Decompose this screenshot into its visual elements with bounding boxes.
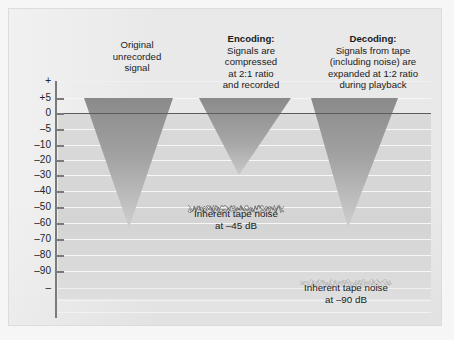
y-axis-tick-mark: [57, 98, 64, 100]
tape-noise-caption: Inherent tape noiseat –45 dB: [172, 208, 300, 232]
y-axis-label: –60: [34, 218, 51, 228]
zero-db-reference-line: [58, 113, 431, 114]
tape-noise-caption-line1: Inherent tape noise: [284, 282, 408, 294]
gridline: [58, 145, 431, 146]
y-axis-tick-mark: [57, 145, 64, 147]
gridline: [58, 129, 431, 130]
column-heading-original: Originalunrecordedsignal: [83, 39, 191, 74]
column-heading-line: Signals from tape: [305, 45, 441, 57]
gridline: [58, 191, 431, 192]
column-heading-line: (including noise) are: [305, 56, 441, 68]
gridline: [58, 271, 431, 272]
column-heading-line: signal: [83, 62, 191, 74]
y-axis-tick-mark: [57, 271, 64, 273]
y-axis-tick-mark: [57, 129, 64, 131]
y-axis-tick-mark: [57, 239, 64, 241]
y-axis-tick-mark: [57, 175, 64, 177]
column-heading-decoding: Decoding:Signals from tape(including noi…: [305, 33, 441, 91]
column-heading-line: Original: [83, 39, 191, 51]
column-heading-line: expanded at 1:2 ratio: [305, 68, 441, 80]
y-axis-label: –5: [40, 124, 51, 134]
column-heading-line: compressed: [199, 56, 303, 68]
column-heading-line: during playback: [305, 79, 441, 91]
column-heading-line: unrecorded: [83, 51, 191, 63]
y-axis-label: –40: [34, 186, 51, 196]
column-heading-line: and recorded: [199, 79, 303, 91]
gridline: [58, 160, 431, 161]
column-heading-title: Encoding:: [199, 33, 303, 45]
gridline: [58, 312, 431, 313]
y-axis-label: –30: [34, 170, 51, 180]
y-axis-label: +: [45, 76, 51, 86]
y-axis-labels: ++50–5–10–20–30–40–50–60–70–80–90–: [9, 9, 53, 326]
column-heading-line: at 2:1 ratio: [199, 68, 303, 80]
column-heading-line: Signals are: [199, 45, 303, 57]
column-heading-title: Decoding:: [305, 33, 441, 45]
tape-noise-caption-line2: at –90 dB: [284, 294, 408, 306]
y-axis-label: –90: [34, 266, 51, 276]
y-axis-label: –80: [34, 250, 51, 260]
y-axis-tick-mark: [57, 113, 64, 115]
gridline: [58, 175, 431, 176]
y-axis-label: –20: [34, 155, 51, 165]
y-axis-label: +5: [40, 93, 51, 103]
y-axis-tick-mark: [57, 255, 64, 257]
gridline: [58, 239, 431, 240]
tape-noise-band: [188, 199, 284, 207]
gridline: [58, 98, 431, 99]
annotation-tape-noise-90db: Inherent tape noiseat –90 dB: [300, 273, 392, 305]
y-axis-label: –: [45, 283, 51, 293]
y-axis-label: –70: [34, 234, 51, 244]
y-axis-label: –10: [34, 140, 51, 150]
tape-noise-caption-line2: at –45 dB: [172, 220, 300, 232]
gridline: [58, 255, 431, 256]
y-axis-line: [55, 81, 57, 318]
y-axis-tick-mark: [57, 223, 64, 225]
y-axis-label: –50: [34, 202, 51, 212]
annotation-tape-noise-45db: Inherent tape noiseat –45 dB: [188, 199, 284, 231]
y-axis-tick-mark: [57, 207, 64, 209]
y-axis-tick-mark: [57, 191, 64, 193]
column-heading-encoding: Encoding:Signals arecompressedat 2:1 rat…: [199, 33, 303, 91]
y-axis-tick-mark: [57, 160, 64, 162]
tape-noise-band: [300, 273, 392, 281]
diagram-panel: ++50–5–10–20–30–40–50–60–70–80–90– Origi…: [8, 8, 442, 326]
tape-noise-caption: Inherent tape noiseat –90 dB: [284, 282, 408, 306]
y-axis-label: 0: [45, 108, 51, 118]
tape-noise-caption-line1: Inherent tape noise: [172, 208, 300, 220]
